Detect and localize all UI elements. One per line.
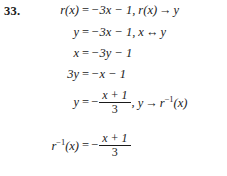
step-1-rhs-expression: −3x − 1, [91, 3, 135, 18]
step-5-numerator: x + 1 [99, 89, 130, 102]
step-4-right-side: = −x − 1 [80, 67, 227, 82]
step-1-right-side: = −3x − 1, r(x)→y [80, 3, 227, 18]
step-6-denominator: 3 [109, 146, 121, 159]
solution-step-6: r−1(x) = − x + 1 3 [0, 132, 227, 158]
left-right-arrow-icon: ↔ [144, 25, 161, 39]
step-6-minus-sign: − [91, 138, 98, 153]
solution-step-3: x = −3y − 1 [0, 46, 227, 61]
solution-step-1: r(x) = −3x − 1, r(x)→y [0, 3, 227, 18]
step-5-right-side: = − x + 1 3 , y→r−1(x) [80, 89, 227, 115]
step-6-lhs-argument: (x) [65, 139, 79, 153]
equals-sign: = [81, 3, 91, 18]
step-2-annotation: x↔y [138, 25, 166, 40]
step-2-rhs-expression: −3x − 1, [91, 25, 135, 40]
step-5-annotation: y→r−1(x) [138, 94, 188, 111]
step-1-annotation-source: r(x) [138, 3, 157, 17]
math-solution-block: 33. r(x) = −3x − 1, r(x)→y y = −3x − 1, … [0, 0, 227, 176]
solution-step-2: y = −3x − 1, x↔y [0, 25, 227, 40]
step-5-numerator-text: x + 1 [102, 88, 127, 102]
step-6-left-side: r−1(x) [0, 137, 80, 154]
step-5-annotation-target-arg: (x) [173, 96, 187, 110]
step-3-left-side: x [0, 46, 80, 61]
step-2-lhs-expression: y [73, 25, 79, 39]
step-6-right-side: = − x + 1 3 [80, 132, 227, 158]
step-5-left-side: y [0, 95, 80, 110]
step-6-numerator: x + 1 [99, 132, 130, 145]
step-4-left-side: 3y [0, 67, 80, 82]
solution-step-5: y = − x + 1 3 , y→r−1(x) [0, 89, 227, 115]
right-arrow-icon: → [143, 96, 160, 110]
equals-sign: = [81, 95, 91, 110]
equals-sign: = [81, 46, 91, 61]
equals-sign: = [81, 25, 91, 40]
solution-step-4: 3y = −x − 1 [0, 67, 227, 82]
step-6-numerator-text: x + 1 [102, 131, 127, 145]
step-1-lhs-expression: r(x) [60, 3, 79, 17]
step-2-right-side: = −3x − 1, x↔y [80, 25, 227, 40]
step-4-rhs-expression: −x − 1 [91, 67, 126, 82]
step-5-comma: , [132, 95, 135, 110]
step-2-left-side: y [0, 25, 80, 40]
equals-sign: = [81, 67, 91, 82]
step-1-annotation-target: y [174, 3, 180, 17]
right-arrow-icon: → [157, 3, 174, 17]
equals-sign: = [81, 138, 91, 153]
step-5-denominator: 3 [109, 103, 121, 116]
step-3-lhs-expression: x [73, 46, 79, 60]
step-5-lhs-expression: y [73, 95, 79, 109]
step-1-left-side: r(x) [0, 3, 80, 18]
step-3-rhs-expression: −3y − 1 [91, 46, 132, 61]
step-6-fraction: x + 1 3 [99, 132, 130, 158]
step-5-minus-sign: − [91, 95, 98, 110]
step-1-annotation: r(x)→y [138, 3, 179, 18]
step-3-right-side: = −3y − 1 [80, 46, 227, 61]
step-2-annotation-target: y [160, 25, 166, 39]
step-4-lhs-expression: 3y [67, 67, 79, 81]
step-6-lhs-exponent: −1 [56, 137, 65, 147]
step-5-fraction: x + 1 3 [99, 89, 130, 115]
